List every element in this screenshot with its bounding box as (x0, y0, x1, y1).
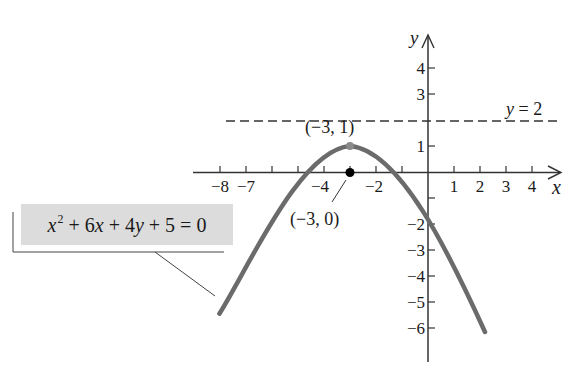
y-ticks (428, 68, 435, 328)
x-tick-label: 2 (476, 177, 485, 196)
x-tick-label: −2 (365, 177, 383, 196)
parabola-figure: −8 −7 −4 −2 1 2 3 4 4 3 1 −2 −3 −4 −5 −6… (0, 0, 580, 370)
vertex-point (346, 142, 354, 150)
eq-part: + 6 (63, 214, 94, 236)
eq-x: x (48, 214, 57, 236)
y-tick-label: −3 (407, 241, 425, 260)
y-tick-label: −2 (407, 215, 425, 234)
focus-label: (−3, 0) (290, 209, 339, 230)
y-tick-label: 3 (417, 85, 426, 104)
vertex-label: (−3, 1) (305, 117, 354, 138)
eq-y: y (135, 214, 144, 236)
x-tick-label: 4 (528, 177, 537, 196)
eq-part: + 5 = 0 (144, 214, 207, 236)
eq-part: + 4 (104, 214, 135, 236)
x-tick-label: −7 (237, 177, 256, 196)
x-tick-labels: −8 −7 −4 −2 1 2 3 4 (211, 177, 537, 196)
callout-pointer (155, 252, 215, 296)
x-tick-label: −4 (311, 177, 330, 196)
y-tick-label: −5 (407, 293, 425, 312)
x-tick-label: 3 (502, 177, 511, 196)
directrix-label: y = 2 (504, 99, 542, 119)
y-tick-label: −6 (407, 319, 425, 338)
equation-text: x2 + 6x + 4y + 5 = 0 (48, 212, 207, 237)
x-ticks (220, 166, 532, 172)
equation-callout: x2 + 6x + 4y + 5 = 0 (21, 204, 233, 245)
y-tick-label: −4 (407, 267, 426, 286)
y-axis-label: y (408, 27, 419, 48)
y-tick-label: 4 (417, 59, 426, 78)
x-tick-label: −8 (211, 177, 229, 196)
x-axis-label: x (551, 176, 561, 198)
eq-x: x (95, 214, 104, 236)
x-tick-label: 1 (450, 177, 459, 196)
focus-point (346, 168, 355, 177)
focus-leader-line (332, 180, 346, 202)
y-tick-label: 1 (417, 137, 426, 156)
